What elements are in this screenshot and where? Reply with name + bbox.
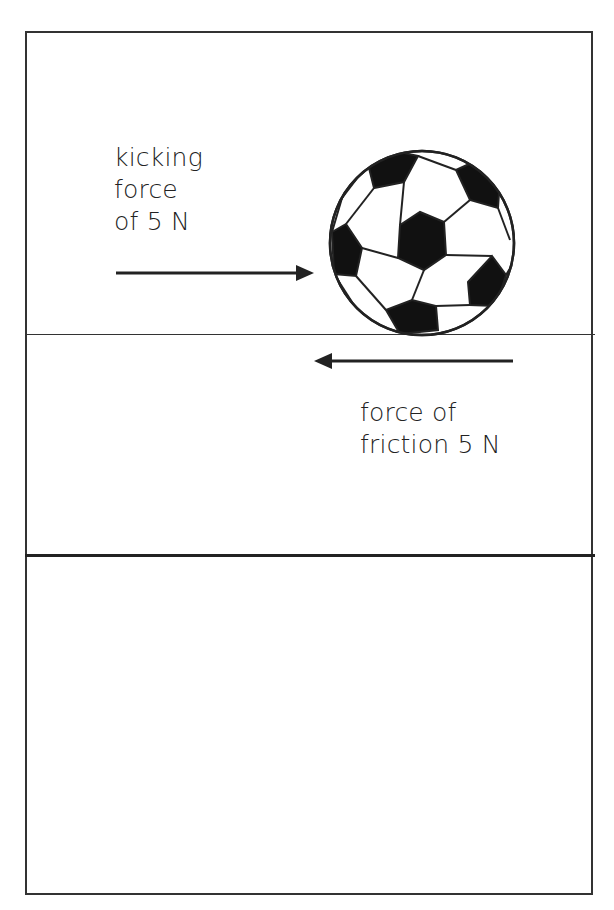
- diagram-graphics: [0, 0, 614, 910]
- friction-force-arrow-icon: [314, 353, 513, 369]
- soccer-ball-icon: [330, 140, 514, 335]
- kicking-force-arrow-icon: [116, 265, 314, 281]
